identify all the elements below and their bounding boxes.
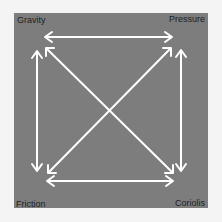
force-diagram: Gravity Pressure Friction Coriolis (0, 0, 222, 222)
arrow-layer (0, 0, 222, 222)
node-label-gravity: Gravity (17, 16, 46, 25)
node-label-pressure: Pressure (169, 15, 205, 24)
node-label-coriolis: Coriolis (175, 199, 205, 208)
arrow-gravity-friction (32, 51, 42, 171)
node-label-friction: Friction (16, 200, 46, 209)
arrow-pressure-coriolis (176, 50, 186, 171)
arrow-gravity-pressure (45, 32, 172, 42)
arrow-friction-coriolis (47, 176, 173, 186)
